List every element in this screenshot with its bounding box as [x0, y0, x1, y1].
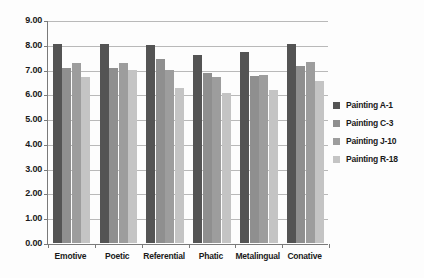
y-axis-tick-label: 1.00 [2, 213, 42, 223]
bar [296, 66, 305, 243]
legend-item-label: Painting C-3 [346, 118, 393, 128]
y-axis-tick [44, 120, 48, 121]
x-axis-tick-label: Conative [281, 251, 328, 261]
bar [72, 63, 81, 243]
bar [175, 88, 184, 243]
legend-item[interactable]: Painting R-18 [333, 150, 398, 168]
legend-swatch-icon [333, 156, 340, 163]
legend-swatch-icon [333, 120, 340, 127]
y-axis-tick-label: 5.00 [2, 114, 42, 124]
x-axis-tick-label: Referential [141, 251, 188, 261]
x-axis-tick-label: Emotive [47, 251, 94, 261]
x-axis-tick [142, 244, 143, 248]
legend-swatch-icon [333, 138, 340, 145]
x-axis-tick [282, 244, 283, 248]
x-axis-tick [189, 244, 190, 248]
y-axis-tick [44, 194, 48, 195]
y-axis-tick-label: 8.00 [2, 40, 42, 50]
bar [287, 44, 296, 243]
bar [193, 55, 202, 243]
y-axis-tick-label: 2.00 [2, 188, 42, 198]
bar [100, 44, 109, 243]
chart-legend: Painting A-1Painting C-3Painting J-10Pai… [333, 96, 398, 168]
bar [203, 73, 212, 243]
y-axis-tick-label: 0.00 [2, 238, 42, 248]
y-axis-tick-label: 7.00 [2, 65, 42, 75]
bar [306, 62, 315, 243]
plot-area [47, 21, 328, 245]
y-axis-tick [44, 219, 48, 220]
bar-group [53, 20, 91, 243]
legend-item-label: Painting J-10 [346, 136, 396, 146]
bar [269, 90, 278, 243]
bar-chart: 9.008.007.006.005.004.003.002.001.000.00… [0, 0, 424, 278]
bar [146, 45, 155, 243]
y-axis-tick [44, 21, 48, 22]
bar [119, 63, 128, 243]
y-axis-tick [44, 170, 48, 171]
x-axis-tick [48, 244, 49, 248]
bar [259, 75, 268, 243]
legend-item[interactable]: Painting C-3 [333, 114, 398, 132]
bar-group [146, 20, 184, 243]
y-axis-tick-label: 6.00 [2, 89, 42, 99]
bar [53, 44, 62, 243]
bar-group [240, 20, 278, 243]
bar [212, 77, 221, 243]
y-axis-tick [44, 71, 48, 72]
x-axis-tick-label: Metalingual [234, 251, 281, 261]
y-axis-tick-label: 4.00 [2, 139, 42, 149]
y-axis-tick [44, 46, 48, 47]
bar-group [287, 20, 325, 243]
bar [165, 70, 174, 243]
x-axis-tick [95, 244, 96, 248]
bar [222, 93, 231, 243]
bar [156, 59, 165, 243]
bar [109, 68, 118, 243]
x-axis-tick [329, 244, 330, 248]
bar [240, 52, 249, 243]
legend-item[interactable]: Painting A-1 [333, 96, 398, 114]
y-axis-tick-label: 9.00 [2, 15, 42, 25]
bar [62, 68, 71, 243]
y-axis-tick [44, 145, 48, 146]
bar-group [100, 20, 138, 243]
x-axis-tick-label: Poetic [94, 251, 141, 261]
bar [250, 76, 259, 243]
bar [315, 81, 324, 243]
legend-item-label: Painting R-18 [346, 154, 398, 164]
legend-item[interactable]: Painting J-10 [333, 132, 398, 150]
y-axis-tick-label: 3.00 [2, 164, 42, 174]
y-axis-tick [44, 95, 48, 96]
bar-group [193, 20, 231, 243]
bar [81, 77, 90, 244]
legend-item-label: Painting A-1 [346, 100, 393, 110]
legend-swatch-icon [333, 102, 340, 109]
bar [128, 70, 137, 243]
x-axis-tick-label: Phatic [188, 251, 235, 261]
x-axis-tick [235, 244, 236, 248]
